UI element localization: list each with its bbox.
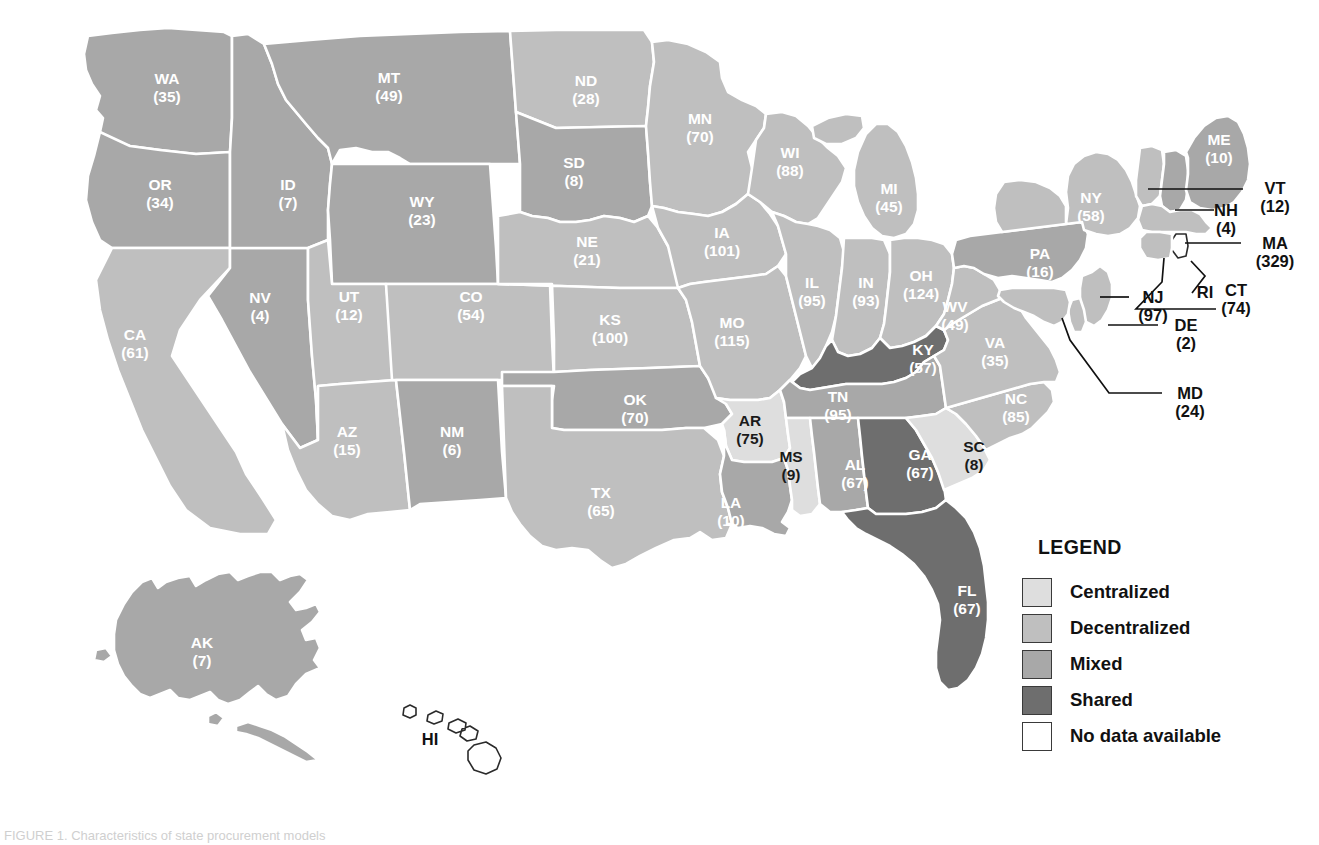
label-CO-code: CO <box>459 288 482 305</box>
label-MT-code: MT <box>378 69 401 86</box>
label-PA-code: PA <box>1030 245 1050 262</box>
label-CT-value: (74) <box>1221 299 1250 317</box>
legend-label-shared: Shared <box>1070 689 1133 711</box>
legend-item-decentralized[interactable]: Decentralized <box>1022 610 1272 646</box>
label-DE-value: (2) <box>1176 334 1196 352</box>
legend-swatch-no-data <box>1022 722 1052 751</box>
label-OK-value: (70) <box>621 409 649 426</box>
label-MI-code: MI <box>880 180 897 197</box>
label-AZ-code: AZ <box>337 423 358 440</box>
label-KS-value: (100) <box>592 329 628 346</box>
legend-swatch-centralized <box>1022 578 1052 607</box>
label-AK-value: (7) <box>193 652 212 669</box>
label-WY-value: (23) <box>408 211 436 228</box>
state-RI[interactable] <box>1172 234 1188 258</box>
label-WY-code: WY <box>410 193 436 210</box>
label-NJ-code: NJ <box>1142 288 1163 306</box>
label-ND-value: (28) <box>572 90 600 107</box>
label-AL-code: AL <box>845 456 866 473</box>
label-CO-value: (54) <box>457 306 485 323</box>
label-FL-code: FL <box>958 582 977 599</box>
legend-item-centralized[interactable]: Centralized <box>1022 574 1272 610</box>
label-MD-value: (24) <box>1175 402 1204 420</box>
label-NH-code: NH <box>1214 201 1238 219</box>
label-RI-code: RI <box>1197 283 1214 301</box>
label-AR-value: (75) <box>736 430 764 447</box>
label-DE-code: DE <box>1175 316 1198 334</box>
label-MI-value: (45) <box>875 198 903 215</box>
label-MS-value: (9) <box>782 466 801 483</box>
label-NJ-value: (97) <box>1138 306 1167 324</box>
label-MT-value: (49) <box>375 87 403 104</box>
label-UT-code: UT <box>339 288 360 305</box>
label-LA-value: (10) <box>717 512 745 529</box>
legend-item-mixed[interactable]: Mixed <box>1022 646 1272 682</box>
label-PA-value: (16) <box>1026 263 1054 280</box>
label-ME-code: ME <box>1207 131 1230 148</box>
label-NM-value: (6) <box>443 441 462 458</box>
legend: LEGEND Centralized Decentralized Mixed S… <box>1022 536 1272 754</box>
legend-label-centralized: Centralized <box>1070 581 1170 603</box>
figure-caption: FIGURE 1. Characteristics of state procu… <box>4 828 804 845</box>
legend-item-shared[interactable]: Shared <box>1022 682 1272 718</box>
label-NY-value: (58) <box>1077 207 1105 224</box>
label-MO-value: (115) <box>714 332 749 349</box>
label-ME-value: (10) <box>1205 149 1233 166</box>
label-MA-value: (329) <box>1256 252 1295 270</box>
legend-label-mixed: Mixed <box>1070 653 1122 675</box>
state-NH[interactable] <box>1160 150 1188 212</box>
legend-label-no-data: No data available <box>1070 725 1221 747</box>
label-OH-value: (124) <box>903 285 939 302</box>
label-OR-value: (34) <box>146 194 174 211</box>
label-KY-code: KY <box>912 341 934 358</box>
label-SC-value: (8) <box>965 456 984 473</box>
label-GA-value: (67) <box>906 464 934 481</box>
label-CA-code: CA <box>124 326 146 343</box>
legend-swatch-mixed <box>1022 650 1052 679</box>
label-ID-value: (7) <box>279 194 298 211</box>
us-choropleth-map: WA (35) OR (34) CA (61) NV (4) ID (7) MT… <box>0 0 1319 845</box>
state-NV[interactable] <box>208 248 318 448</box>
label-AR-code: AR <box>739 412 761 429</box>
state-NY[interactable] <box>994 152 1140 236</box>
state-HI[interactable] <box>403 705 501 774</box>
label-TX-code: TX <box>591 484 611 501</box>
label-WA-value: (35) <box>153 88 181 105</box>
label-NE-value: (21) <box>573 251 601 268</box>
legend-item-no-data[interactable]: No data available <box>1022 718 1272 754</box>
label-FL-value: (67) <box>953 600 981 617</box>
label-NY-code: NY <box>1080 189 1102 206</box>
label-IN-code: IN <box>858 274 874 291</box>
label-KY-value: (57) <box>909 359 937 376</box>
label-TN-value: (95) <box>824 406 852 423</box>
label-KS-code: KS <box>599 311 621 328</box>
label-NH-value: (4) <box>1216 219 1236 237</box>
label-MN-code: MN <box>688 110 712 127</box>
label-WA-code: WA <box>155 70 180 87</box>
legend-swatch-shared <box>1022 686 1052 715</box>
legend-title: LEGEND <box>1038 536 1272 559</box>
label-NC-code: NC <box>1005 390 1027 407</box>
label-TN-code: TN <box>828 388 849 405</box>
legend-swatch-decentralized <box>1022 614 1052 643</box>
label-NV-value: (4) <box>251 307 270 324</box>
label-MN-value: (70) <box>686 128 714 145</box>
label-OH-code: OH <box>909 267 932 284</box>
label-AK-code: AK <box>191 634 214 651</box>
label-MS-code: MS <box>779 448 802 465</box>
label-VA-value: (35) <box>981 352 1009 369</box>
label-NC-value: (85) <box>1002 408 1030 425</box>
label-TX-value: (65) <box>587 502 615 519</box>
label-ND-code: ND <box>575 72 597 89</box>
state-CT[interactable] <box>1140 232 1172 260</box>
label-NM-code: NM <box>440 423 464 440</box>
label-WV-value: (49) <box>941 316 969 333</box>
legend-label-decentralized: Decentralized <box>1070 617 1190 639</box>
label-GA-code: GA <box>908 446 931 463</box>
label-CA-value: (61) <box>121 344 149 361</box>
label-CT-code: CT <box>1225 281 1247 299</box>
label-WI-code: WI <box>781 144 800 161</box>
label-IL-code: IL <box>805 274 819 291</box>
label-SD-value: (8) <box>565 172 584 189</box>
label-AZ-value: (15) <box>333 441 361 458</box>
